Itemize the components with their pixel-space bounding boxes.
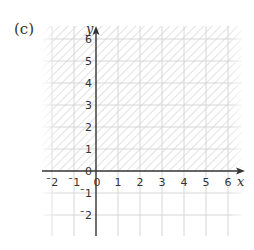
svg-text:5: 5 [203, 176, 210, 189]
x-tick-labels: ¯2 ¯1 0 1 2 3 4 5 6 [46, 176, 232, 189]
svg-text:2: 2 [85, 121, 92, 134]
svg-text:2: 2 [137, 176, 144, 189]
svg-text:3: 3 [85, 99, 92, 112]
svg-text:1: 1 [85, 143, 92, 156]
svg-text:4: 4 [85, 77, 92, 90]
coordinate-graph: x y ¯2 ¯1 0 1 2 3 4 5 6 6 5 4 3 2 1 0 ¯1… [0, 0, 254, 250]
svg-text:6: 6 [225, 176, 232, 189]
svg-text:1: 1 [115, 176, 122, 189]
svg-text:0: 0 [85, 165, 92, 178]
svg-text:6: 6 [85, 33, 92, 46]
svg-text:4: 4 [181, 176, 188, 189]
svg-text:¯2: ¯2 [46, 176, 59, 189]
x-axis-label: x [237, 174, 245, 189]
svg-text:5: 5 [85, 55, 92, 68]
svg-text:¯1: ¯1 [68, 176, 81, 189]
svg-text:0: 0 [94, 176, 101, 189]
svg-text:3: 3 [159, 176, 166, 189]
svg-text:¯1: ¯1 [80, 187, 93, 200]
svg-text:¯2: ¯2 [80, 209, 93, 222]
